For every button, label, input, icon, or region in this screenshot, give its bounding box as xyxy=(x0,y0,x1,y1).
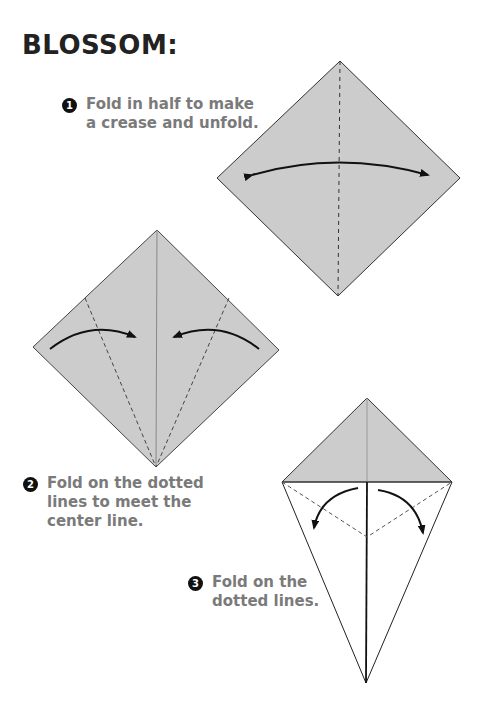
step-text-line: Fold on the xyxy=(212,573,319,592)
step-3-instruction: Fold on the dotted lines. xyxy=(212,573,319,611)
step-number-badge: 1 xyxy=(62,98,77,113)
step-text-line: dotted lines. xyxy=(212,592,319,611)
step-text-line: a crease and unfold. xyxy=(86,114,259,133)
step-number-badge: 3 xyxy=(188,576,203,591)
fold-arrow-right-icon xyxy=(378,490,423,533)
step-number-badge: 2 xyxy=(23,477,38,492)
step-1-instruction: Fold in half to make a crease and unfold… xyxy=(86,95,259,133)
step-text-line: Fold in half to make xyxy=(86,95,259,114)
step-text-line: center line. xyxy=(47,512,204,531)
diagram-step-3 xyxy=(282,398,452,683)
diagram-step-2 xyxy=(33,230,279,467)
step-text-line: lines to meet the xyxy=(47,493,204,512)
fold-arrow-left-icon xyxy=(314,488,358,528)
step-text-line: Fold on the dotted xyxy=(47,474,204,493)
step-2-instruction: Fold on the dotted lines to meet the cen… xyxy=(47,474,204,531)
